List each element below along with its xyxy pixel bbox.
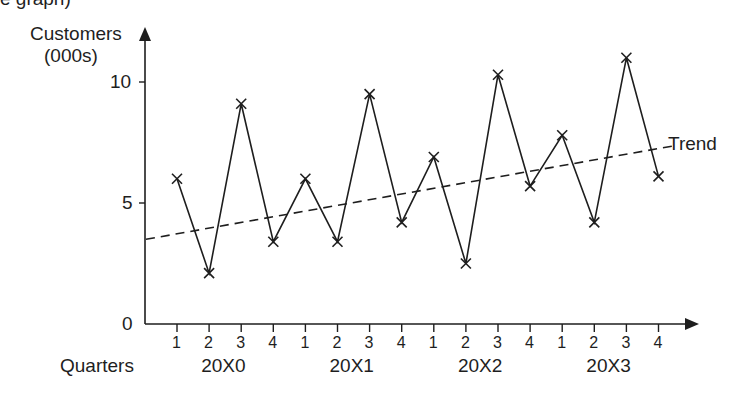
year-group-label: 20X3 — [586, 356, 630, 375]
x-tick-label: 2 — [204, 335, 213, 351]
year-group-label: 20X2 — [458, 356, 502, 375]
x-tick-label: 3 — [621, 335, 630, 351]
x-tick-label: 1 — [300, 335, 309, 351]
x-marker-icon — [557, 130, 567, 140]
y-tick-label: 0 — [122, 314, 133, 333]
trend-label: Trend — [668, 134, 717, 153]
x-marker-icon — [397, 217, 407, 227]
x-tick-label: 3 — [236, 335, 245, 351]
x-axis-label: Quarters — [60, 356, 134, 375]
y-tick-label: 5 — [122, 193, 133, 212]
x-tick-label: 3 — [365, 335, 374, 351]
axes — [139, 27, 699, 332]
y-axis-label-line1: Customers — [30, 24, 122, 43]
x-tick-label: 3 — [493, 335, 502, 351]
x-tick-label: 2 — [589, 335, 598, 351]
customers-series — [172, 53, 664, 278]
x-tick-label: 4 — [654, 335, 663, 351]
y-tick-label: 10 — [110, 72, 131, 91]
x-axis-arrow-icon — [685, 318, 699, 330]
x-tick-label: 4 — [268, 335, 277, 351]
year-group-label: 20X0 — [201, 356, 245, 375]
x-marker-icon — [525, 181, 535, 191]
x-tick-label: 1 — [172, 335, 181, 351]
y-axis-arrow-icon — [139, 27, 151, 41]
x-marker-icon — [300, 174, 310, 184]
x-tick-label: 1 — [557, 335, 566, 351]
y-axis-label-line2: (000s) — [44, 46, 98, 65]
customers-line — [177, 58, 659, 273]
x-tick-label: 1 — [429, 335, 438, 351]
year-group-label: 20X1 — [330, 356, 374, 375]
x-marker-icon — [429, 152, 439, 162]
x-marker-icon — [654, 171, 664, 181]
x-tick-label: 2 — [333, 335, 342, 351]
x-tick-label: 4 — [397, 335, 406, 351]
x-tick-label: 4 — [525, 335, 534, 351]
x-tick-label: 2 — [461, 335, 470, 351]
x-marker-icon — [172, 174, 182, 184]
